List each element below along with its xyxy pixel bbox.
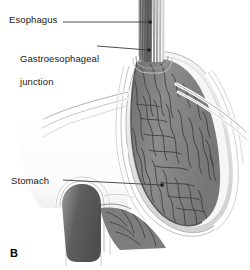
label-gej-line1: Gastroesophageal bbox=[20, 53, 99, 64]
leader-dot-gej bbox=[147, 48, 150, 51]
label-gej-line2: junction bbox=[20, 76, 54, 87]
label-esophagus: Esophagus bbox=[9, 14, 57, 26]
leader-dot-stomach bbox=[160, 183, 163, 186]
anatomy-figure-panel: Esophagus Gastroesophageal junction Stom… bbox=[0, 0, 250, 270]
label-stomach: Stomach bbox=[11, 175, 49, 187]
leader-dot-esophagus bbox=[148, 20, 151, 23]
esophagus bbox=[139, 0, 164, 62]
panel-letter: B bbox=[10, 247, 18, 259]
label-gastroesophageal-junction: Gastroesophageal junction bbox=[9, 41, 99, 99]
